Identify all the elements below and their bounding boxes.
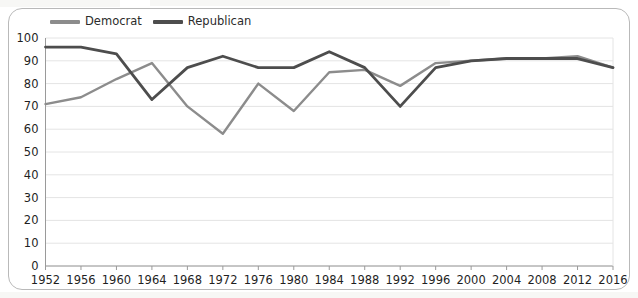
y-tick-label: 70 xyxy=(24,99,39,113)
x-tick-label: 2012 xyxy=(563,273,592,287)
screenshot-root: Democrat Republican 01020304050607080901… xyxy=(0,0,638,298)
x-axis-tick-labels: 1952195619601964196819721976198019841988… xyxy=(31,273,628,287)
plot-area: 0102030405060708090100 19521956196019641… xyxy=(0,0,638,298)
x-tick-label: 1956 xyxy=(66,273,95,287)
x-tick-label: 1992 xyxy=(386,273,415,287)
x-tick-label: 1960 xyxy=(102,273,131,287)
x-tick-label: 1996 xyxy=(421,273,450,287)
y-tick-label: 80 xyxy=(24,77,39,91)
x-tick-label: 2016 xyxy=(598,273,627,287)
y-tick-label: 60 xyxy=(24,122,39,136)
x-tick-label: 1976 xyxy=(244,273,273,287)
x-tick-label: 1984 xyxy=(315,273,344,287)
y-axis-tick-labels: 0102030405060708090100 xyxy=(17,31,39,273)
x-tick-label: 1968 xyxy=(173,273,202,287)
y-tick-label: 50 xyxy=(24,145,39,159)
y-tick-label: 100 xyxy=(17,31,39,45)
x-tick-label: 1980 xyxy=(279,273,308,287)
x-tick-label: 1964 xyxy=(137,273,166,287)
x-tick-label: 1952 xyxy=(31,273,60,287)
series-line-democrat xyxy=(46,56,614,134)
y-tick-label: 90 xyxy=(24,54,39,68)
x-tick-label: 2000 xyxy=(456,273,485,287)
x-tick-label: 1972 xyxy=(208,273,237,287)
y-tick-label: 0 xyxy=(31,259,38,273)
y-tick-label: 10 xyxy=(24,236,39,250)
y-tick-label: 20 xyxy=(24,213,39,227)
y-tick-label: 30 xyxy=(24,191,39,205)
data-series-group xyxy=(46,47,614,134)
x-tick-label: 2004 xyxy=(492,273,521,287)
y-tick-label: 40 xyxy=(24,168,39,182)
x-tick-label: 2008 xyxy=(527,273,556,287)
series-line-republican xyxy=(46,47,614,106)
line-chart: 0102030405060708090100 19521956196019641… xyxy=(0,0,638,298)
x-tick-label: 1988 xyxy=(350,273,379,287)
